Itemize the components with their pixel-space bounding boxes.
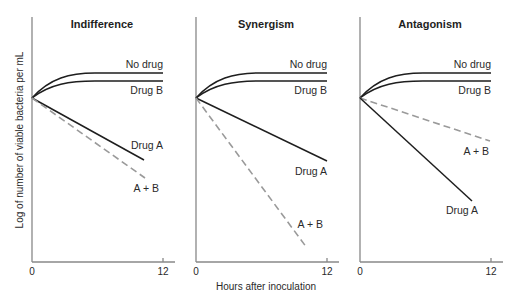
label-no-drug: No drug <box>454 58 492 70</box>
label-no-drug: No drug <box>126 58 164 70</box>
curve-drug-a <box>196 98 327 161</box>
curve-a-plus-b <box>196 98 307 248</box>
curve-a-plus-b <box>360 98 490 141</box>
label-drug-b: Drug B <box>294 84 327 96</box>
curve-drug-a <box>32 98 144 160</box>
label-a-plus-b: A + B <box>464 145 489 157</box>
panel-antagonism: Antagonism No drug Drug B A + B Drug A 0… <box>357 17 503 277</box>
panel-synergism: Synergism No drug Drug B Drug A A + B 0 … <box>193 17 339 292</box>
x-tick-label-0: 0 <box>29 266 35 277</box>
label-drug-a: Drug A <box>295 165 327 177</box>
y-axis-label: Log of number of viable bacteria per mL <box>14 51 25 228</box>
x-tick-label-0: 0 <box>193 266 199 277</box>
figure-canvas: Log of number of viable bacteria per mL … <box>0 0 512 301</box>
x-tick-label-0: 0 <box>357 266 363 277</box>
label-a-plus-b: A + B <box>134 182 159 194</box>
panel-indifference: Indifference No drug Drug B Drug A A + B… <box>29 17 175 277</box>
x-tick-label-12: 12 <box>321 266 333 277</box>
panel-title: Synergism <box>238 18 294 30</box>
x-axis-label: Hours after inoculation <box>216 281 316 292</box>
panel-title: Indifference <box>71 18 133 30</box>
label-drug-a: Drug A <box>131 139 163 151</box>
x-tick-label-12: 12 <box>157 266 169 277</box>
label-drug-b: Drug B <box>458 84 491 96</box>
label-drug-b: Drug B <box>130 84 163 96</box>
panel-title: Antagonism <box>398 18 462 30</box>
label-a-plus-b: A + B <box>298 218 323 230</box>
curve-drug-a <box>360 98 472 201</box>
label-no-drug: No drug <box>290 58 328 70</box>
label-drug-a: Drug A <box>446 204 478 216</box>
curve-a-plus-b <box>32 98 145 178</box>
x-tick-label-12: 12 <box>485 266 497 277</box>
